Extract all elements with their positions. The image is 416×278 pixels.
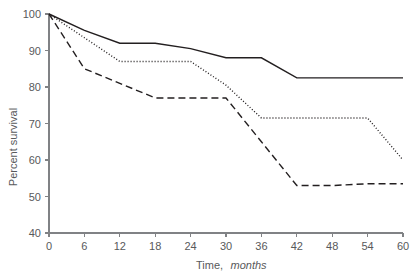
x-tick-label: 30 <box>220 240 232 252</box>
x-tick-label: 54 <box>361 240 373 252</box>
y-tick-label: 90 <box>29 45 41 57</box>
y-tick-label: 40 <box>29 227 41 239</box>
x-axis-title-plain: Time, <box>196 259 223 271</box>
x-axis-tick-labels: 06121824303642485460 <box>46 240 409 252</box>
x-tick-label: 24 <box>184 240 196 252</box>
x-axis-ticks <box>49 233 403 237</box>
survival-chart-figure: 405060708090100 06121824303642485460 Per… <box>0 0 416 278</box>
series-dotted-curve <box>49 14 403 160</box>
y-axis-ticks <box>45 14 49 233</box>
y-axis-title: Percent survival <box>7 108 19 186</box>
x-tick-label: 18 <box>149 240 161 252</box>
x-tick-label: 48 <box>326 240 338 252</box>
series-solid-curve <box>49 14 403 78</box>
y-tick-label: 80 <box>29 81 41 93</box>
x-tick-label: 60 <box>397 240 409 252</box>
chart-canvas: 405060708090100 06121824303642485460 Per… <box>0 0 416 278</box>
y-tick-label: 50 <box>29 191 41 203</box>
y-tick-label: 100 <box>23 8 41 20</box>
y-tick-label: 60 <box>29 154 41 166</box>
x-tick-label: 12 <box>114 240 126 252</box>
x-axis-title-italic: months <box>231 259 268 271</box>
series-dashed-curve <box>49 14 403 186</box>
x-axis-title: Time, months <box>196 255 267 272</box>
x-tick-label: 6 <box>81 240 87 252</box>
x-tick-label: 36 <box>255 240 267 252</box>
data-series-group <box>49 14 403 186</box>
y-axis-tick-labels: 405060708090100 <box>23 8 41 239</box>
y-tick-label: 70 <box>29 118 41 130</box>
x-tick-label: 0 <box>46 240 52 252</box>
x-tick-label: 42 <box>291 240 303 252</box>
